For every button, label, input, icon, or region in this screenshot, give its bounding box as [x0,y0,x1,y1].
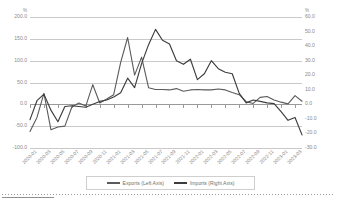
footer-underline [2,197,54,198]
x-axis-labels: 2020-012020-032020-052020-072020-092020-… [30,149,302,179]
left-axis-tick-label: 200.0 [14,14,27,19]
chart-container: % % 200.0150.0100.050.00.0-50.0-100.0 60… [0,0,337,203]
right-axis-tick-label: 0.0 [305,102,312,107]
chart-legend: Exports (Left Axis) Imports (Right Axis) [86,176,255,190]
left-axis-tick-label: 100.0 [14,58,27,63]
x-axis-tick-label: 2020-05 [49,149,65,165]
x-axis-tick-label: 2022-05 [217,149,233,165]
left-axis-tick-label: -50.0 [15,124,27,129]
left-axis-tick-label: -100.0 [13,145,27,150]
x-axis-tick-label: 2020-03 [35,149,51,165]
series-line-exports [30,38,302,132]
left-axis-unit: % [0,8,27,13]
right-axis-tick-label: 30.0 [305,58,315,63]
left-axis-ticks: 200.0150.0100.050.00.0-50.0-100.0 [0,17,27,148]
x-axis-tick-label: 2020-07 [63,149,79,165]
plot-area [30,17,302,148]
right-axis-tick-label: -10.0 [305,116,317,121]
series-line-imports [30,29,302,135]
right-axis-tick-label: 20.0 [305,73,315,78]
right-axis-tick-label: 10.0 [305,87,315,92]
right-axis-tick-label: 60.0 [305,14,315,19]
right-axis-tick-label: -30.0 [305,145,317,150]
left-axis-tick-label: 0.0 [20,102,27,107]
right-axis-ticks: 60.050.040.030.020.010.00.0-10.0-20.0-30… [305,17,335,148]
x-axis-tick-label: 2022-09 [244,149,260,165]
left-axis-tick-label: 50.0 [17,80,27,85]
x-axis-tick-label: 2020-09 [77,149,93,165]
dotted-separator [2,194,335,195]
legend-label-imports: Imports (Right Axis) [190,180,234,186]
legend-swatch-exports [107,182,120,184]
left-axis-tick-label: 150.0 [14,36,27,41]
series-lines [30,17,302,148]
x-axis-tick-label: 2023-03 [286,149,302,165]
right-axis-tick-label: -20.0 [305,131,317,136]
x-axis-tick-label: 2022-07 [231,149,247,165]
legend-item-imports[interactable]: Imports (Right Axis) [174,180,234,186]
right-axis-tick-label: 50.0 [305,29,315,34]
x-axis-tick-label: 2020-11 [91,149,107,165]
legend-label-exports: Exports (Left Axis) [123,180,164,186]
right-axis-tick-label: 40.0 [305,44,315,49]
legend-item-exports[interactable]: Exports (Left Axis) [107,180,164,186]
right-axis-unit: % [305,8,335,13]
legend-swatch-imports [174,182,187,184]
x-axis-tick-label: 2020-01 [21,149,37,165]
